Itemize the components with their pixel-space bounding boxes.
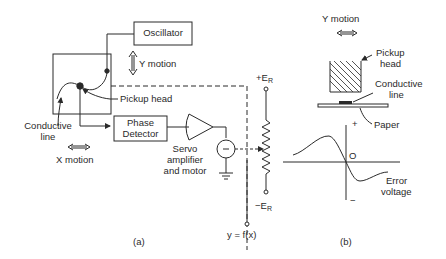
- pickup-head-label-b1: Pickup: [376, 47, 405, 58]
- minus-er-terminal: [264, 190, 268, 194]
- figure: Oscillator Y motion Pickup head Conducti…: [0, 0, 446, 259]
- caption-a: (a): [133, 236, 145, 247]
- paper-strip: [318, 104, 388, 107]
- plus-label: +: [352, 118, 358, 129]
- pickup-head-leader-b: [362, 55, 372, 60]
- minus-er-label: −ER: [255, 200, 272, 214]
- error-voltage-label-1: Error: [386, 175, 407, 186]
- error-voltage-label-2: voltage: [381, 186, 412, 197]
- origin-label: O: [349, 150, 356, 161]
- pickup-head-leader: [83, 89, 118, 99]
- conductive-line-strip: [339, 101, 352, 104]
- potentiometer-resistor: [262, 120, 270, 174]
- phase-detector-label-1: Phase: [114, 118, 167, 128]
- conductive-line-label-a2: line: [18, 131, 78, 142]
- pickup-head-block: [310, 61, 383, 92]
- minus-label: −: [350, 195, 356, 206]
- y-motion-label-b: Y motion: [322, 13, 359, 24]
- caption-b: (b): [340, 236, 352, 247]
- pickup-head-label-b2: head: [380, 58, 401, 69]
- head-to-detector-wire: [80, 89, 110, 126]
- conductive-line-label-b1: Conductive: [375, 78, 423, 89]
- paper-label: Paper: [374, 119, 399, 130]
- plus-er-terminal: [264, 87, 268, 91]
- y-motion-arrow-a: [129, 51, 137, 75]
- y-motion-arrow-b: [337, 30, 357, 36]
- amp-to-motor-wire: [213, 127, 226, 138]
- paper-leader: [360, 108, 372, 124]
- conductive-line-label-b2: line: [389, 89, 404, 100]
- servo-label-1: Servo: [155, 143, 215, 154]
- phase-detector-label-2: Detector: [114, 129, 167, 139]
- servo-amplifier-triangle: [186, 114, 213, 140]
- error-voltage-curve: [293, 136, 388, 181]
- conductive-line-label-a1: Conductive: [18, 120, 78, 131]
- conductive-line-leader-b: [353, 93, 373, 102]
- pickup-head-label-a: Pickup head: [120, 93, 172, 104]
- x-motion-label: X motion: [56, 154, 94, 165]
- servo-label-2: amplifier: [155, 154, 215, 165]
- oscillator-label: Oscillator: [134, 28, 192, 38]
- plus-er-label: +ER: [256, 72, 273, 86]
- servo-label-3: and motor: [155, 165, 215, 176]
- x-motion-arrow-a: [68, 144, 90, 150]
- y-motion-label-a: Y motion: [139, 58, 176, 69]
- output-label: y = f(x): [227, 229, 256, 240]
- pickup-head-dot: [77, 83, 83, 89]
- output-terminal: [245, 222, 249, 226]
